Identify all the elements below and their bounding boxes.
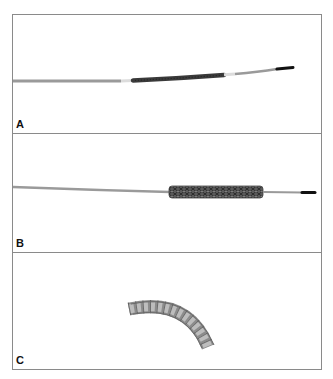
panel-b: B [13,134,321,253]
panel-label-c: C [16,355,24,366]
catheter-illustration-a [13,15,321,133]
curved-stent-illustration [13,253,321,369]
panel-c: C [13,253,321,369]
figure-frame: A B [12,14,322,370]
panel-label-a: A [16,119,24,130]
panel-label-b: B [16,238,24,249]
catheter-illustration-b [13,134,321,252]
panel-a: A [13,15,321,134]
